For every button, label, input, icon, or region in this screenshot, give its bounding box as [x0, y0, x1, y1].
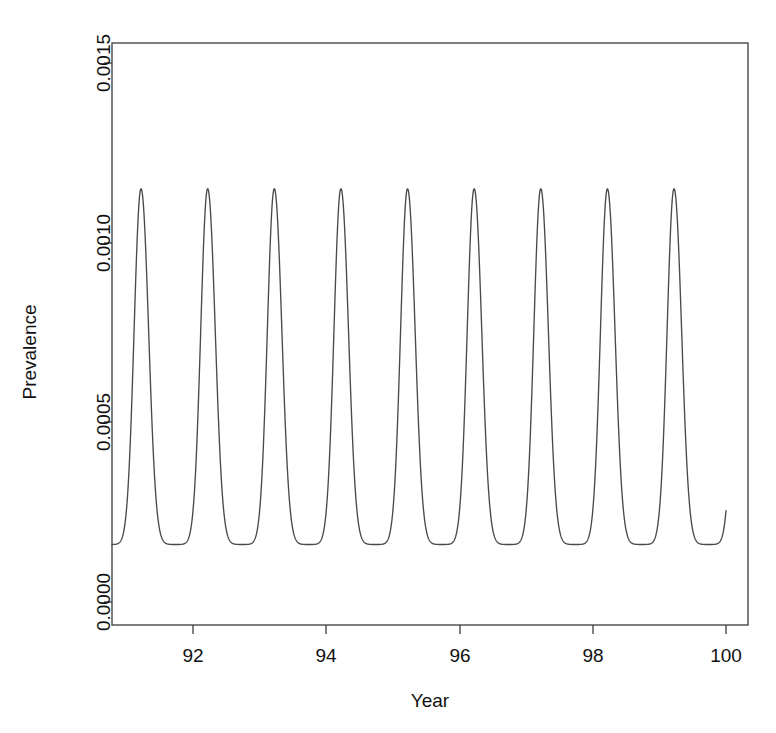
x-tick-label-2: 96	[449, 645, 470, 666]
figure-canvas: 0.0015 0.0010 0.0005 0.0000 92 94 96 98 …	[0, 0, 776, 733]
x-tick-label-3: 98	[582, 645, 603, 666]
x-axis-tick-labels: 92 94 96 98 100	[182, 645, 741, 666]
x-tick-label-0: 92	[182, 645, 203, 666]
y-tick-label-0: 0.0000	[93, 573, 114, 631]
y-tick-label-2: 0.0010	[93, 214, 114, 272]
prevalence-curve	[112, 189, 726, 545]
y-axis-ticks	[104, 63, 112, 602]
x-axis-ticks	[193, 625, 726, 634]
plot-frame	[112, 43, 748, 625]
y-tick-label-3: 0.0015	[93, 34, 114, 92]
x-tick-label-4: 100	[710, 645, 742, 666]
prevalence-line-chart: 0.0015 0.0010 0.0005 0.0000 92 94 96 98 …	[0, 0, 776, 733]
y-axis-title: Prevalence	[19, 304, 40, 399]
y-tick-label-1: 0.0005	[93, 393, 114, 451]
x-tick-label-1: 94	[315, 645, 337, 666]
x-axis-title: Year	[411, 690, 450, 711]
y-axis-tick-labels: 0.0015 0.0010 0.0005 0.0000	[93, 34, 114, 631]
